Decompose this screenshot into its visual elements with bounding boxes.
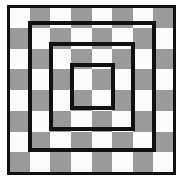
board-cell (30, 132, 51, 153)
board-cell (133, 69, 154, 90)
board-cell (30, 111, 51, 132)
board-cell (71, 111, 92, 132)
board-cell (50, 28, 71, 49)
board-cell (50, 7, 71, 28)
board-cell (9, 132, 30, 153)
board-cell (92, 90, 113, 111)
board-cell (92, 132, 113, 153)
board-cell (30, 28, 51, 49)
board-cell (92, 7, 113, 28)
board-cell (50, 49, 71, 70)
board-cell (153, 49, 174, 70)
board-cell (71, 28, 92, 49)
board-cell (112, 28, 133, 49)
board-cell (9, 7, 30, 28)
board-cell (92, 152, 113, 173)
board-cell (71, 152, 92, 173)
board-cell (112, 152, 133, 173)
board-cell (112, 111, 133, 132)
board-cell (153, 111, 174, 132)
board-cell (112, 49, 133, 70)
board-cell (92, 49, 113, 70)
board-cell (30, 49, 51, 70)
board-cell (71, 7, 92, 28)
board-cell (92, 28, 113, 49)
board-cell (112, 90, 133, 111)
board-cell (153, 69, 174, 90)
board-cell (133, 152, 154, 173)
board-cell (9, 111, 30, 132)
board-cell (9, 49, 30, 70)
board-cell (50, 111, 71, 132)
board-cell (133, 49, 154, 70)
board-cell (30, 90, 51, 111)
figure-root (0, 0, 183, 180)
board-cell (50, 152, 71, 173)
board-cell (92, 69, 113, 90)
board-cell (50, 69, 71, 90)
board-cell (9, 28, 30, 49)
board-cell (71, 69, 92, 90)
board-cell (50, 132, 71, 153)
board-cell (133, 7, 154, 28)
board-cell (9, 152, 30, 173)
checkerboard (9, 7, 174, 173)
board-cell (112, 69, 133, 90)
board-cell (153, 90, 174, 111)
board-cell (92, 111, 113, 132)
board-cell (30, 7, 51, 28)
board-cell (112, 132, 133, 153)
board-cell (133, 132, 154, 153)
board-cell (71, 49, 92, 70)
board-cell (71, 132, 92, 153)
board-cell (153, 7, 174, 28)
board-cell (30, 69, 51, 90)
board-cell (153, 152, 174, 173)
board-cell (50, 90, 71, 111)
board-cell (9, 90, 30, 111)
board-cell (9, 69, 30, 90)
board-cell (133, 28, 154, 49)
board-cell (153, 28, 174, 49)
board-cell (153, 132, 174, 153)
board-cell (133, 111, 154, 132)
board-cell (30, 152, 51, 173)
board-cell (112, 7, 133, 28)
board-cell (71, 90, 92, 111)
board-cell (133, 90, 154, 111)
